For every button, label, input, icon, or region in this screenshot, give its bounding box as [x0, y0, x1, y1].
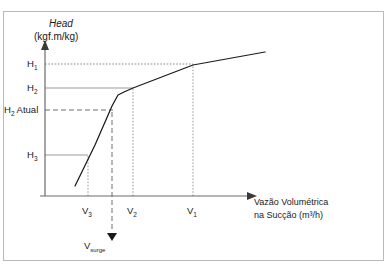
reference-lines	[45, 64, 193, 229]
head-curve	[75, 52, 265, 186]
y-tick-h2-sub: 2	[34, 88, 38, 95]
y-tick-h1-base: H	[27, 58, 34, 69]
x-tick-label-v2: V2	[127, 205, 137, 218]
head-vs-flow-surge-chart: Head (kgf.m/kg) Vazão Volumétrica na Suc…	[0, 0, 388, 270]
y-tick-label-h1: H1	[27, 58, 38, 71]
v-surge-annotation: Vsurge	[84, 240, 105, 253]
y-tick-label-h2: H2	[27, 82, 38, 95]
x-axis-title-line1: Vazão Volumétrica	[254, 197, 328, 207]
y-tick-h2-base: H	[27, 82, 34, 93]
y-tick-h2atual-suffix: Atual	[15, 104, 39, 115]
x-tick-label-v3: V3	[82, 205, 92, 218]
v-surge-sub: surge	[90, 247, 105, 253]
y-tick-h3-sub: 3	[34, 155, 38, 162]
y-tick-h2atual-base: H	[4, 104, 11, 115]
head-curve-series	[75, 52, 265, 186]
x-axis-title-line2: na Sucção (m³/h)	[254, 210, 323, 220]
y-tick-h3-base: H	[27, 149, 34, 160]
x-axis-title: Vazão Volumétrica na Sucção (m³/h)	[254, 196, 328, 221]
y-axis-title-main: Head	[49, 18, 73, 30]
v-surge-down-triangle-icon	[107, 233, 117, 241]
y-tick-label-h3: H3	[27, 149, 38, 162]
y-tick-h1-sub: 1	[34, 64, 38, 71]
x-tick-v1-sub: 1	[193, 211, 197, 218]
y-axis-title-units: (kgf.m/kg)	[34, 31, 78, 43]
x-tick-v3-sub: 3	[88, 211, 92, 218]
x-tick-v2-sub: 2	[133, 211, 137, 218]
y-tick-label-h2-atual: H2 Atual	[4, 104, 38, 117]
x-tick-label-v1: V1	[187, 205, 197, 218]
